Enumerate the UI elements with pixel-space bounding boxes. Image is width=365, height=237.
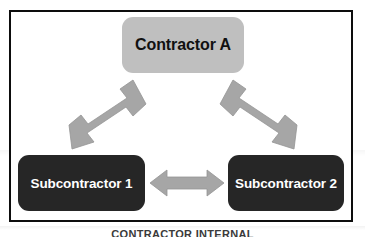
node-contractor-a: Contractor A xyxy=(122,17,244,73)
diagram-caption: CONTRACTOR INTERNAL xyxy=(0,228,365,237)
node-subcontractor-1-label: Subcontractor 1 xyxy=(30,176,132,191)
node-contractor-a-label: Contractor A xyxy=(135,36,231,54)
node-subcontractor-1: Subcontractor 1 xyxy=(18,155,145,211)
node-subcontractor-2-label: Subcontractor 2 xyxy=(235,176,337,191)
node-subcontractor-2: Subcontractor 2 xyxy=(228,155,344,211)
diagram-canvas: Contractor A Subcontractor 1 Subcontract… xyxy=(0,0,365,237)
